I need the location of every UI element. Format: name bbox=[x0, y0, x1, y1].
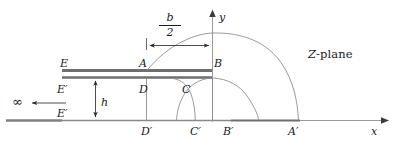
b-over-2-label: b 2 bbox=[159, 12, 181, 38]
point-label-d-prime: D′ bbox=[141, 126, 152, 137]
b-over-2-numerator: b bbox=[159, 12, 181, 24]
figure-canvas bbox=[0, 0, 402, 152]
point-label-e-upper: E bbox=[60, 58, 68, 69]
z-plane-label-rest: -plane bbox=[316, 47, 353, 61]
point-label-a-prime: A′ bbox=[288, 126, 298, 137]
streamline-b bbox=[213, 78, 259, 120]
h-label: h bbox=[101, 97, 108, 108]
point-label-b-prime: B′ bbox=[223, 126, 234, 137]
point-label-a: A bbox=[139, 58, 147, 69]
y-axis-label: y bbox=[219, 12, 225, 23]
point-label-c: C bbox=[182, 84, 190, 95]
b-over-2-denominator: 2 bbox=[159, 27, 181, 39]
x-axis-label: x bbox=[371, 126, 377, 137]
point-label-d: D bbox=[139, 84, 148, 95]
infinity-symbol: ∞ bbox=[12, 95, 23, 108]
point-label-c-prime: C′ bbox=[190, 126, 201, 137]
z-plane-label-italic: Z bbox=[308, 47, 316, 61]
point-label-e-mid: E′ bbox=[57, 84, 68, 95]
point-label-b: B bbox=[214, 58, 222, 69]
point-label-e-lower: E′ bbox=[57, 108, 68, 119]
z-plane-figure: Z-plane ∞ b 2 h y x E E′ E′ A B D C D′ C… bbox=[0, 0, 402, 152]
z-plane-label: Z-plane bbox=[308, 49, 353, 61]
